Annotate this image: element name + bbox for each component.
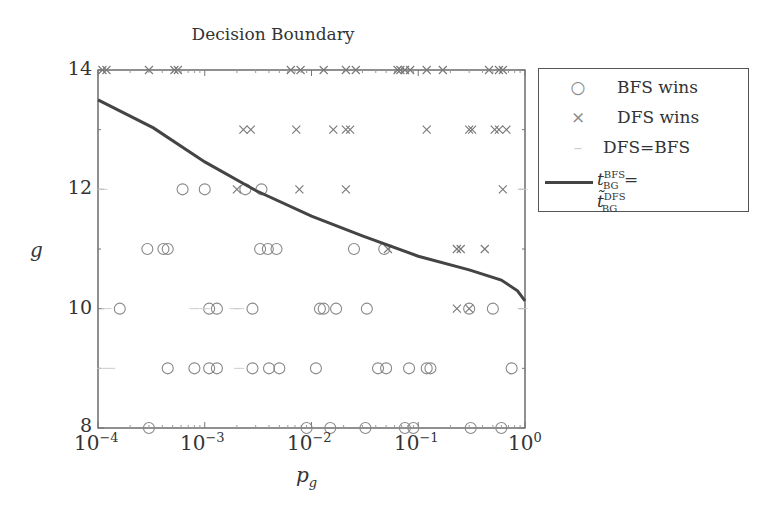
legend-item-dfs-wins: × DFS wins: [539, 107, 748, 135]
legend-item-boundary: tBFSBG = t̃DFSBG: [539, 169, 748, 197]
x-tick-base: 10: [508, 431, 533, 455]
x-tick-exp: −4: [99, 430, 118, 445]
x-tick-exp: −3: [205, 430, 224, 445]
decision-boundary-line: [98, 100, 525, 301]
dash-marker-icon: –: [561, 137, 595, 157]
x-tick-base: 10: [74, 431, 99, 455]
x-tick-1e0: 100: [508, 430, 542, 455]
y-tick-12: 12: [58, 176, 92, 198]
x-axis-label-sub: g: [309, 475, 317, 490]
x-marker-icon: ×: [561, 107, 595, 127]
x-tick-base: 10: [180, 431, 205, 455]
legend-eq: =: [619, 169, 639, 189]
legend-label: tBFSBG = t̃DFSBG: [597, 169, 664, 214]
x-tick-base: 10: [287, 431, 312, 455]
y-axis-label: g: [30, 238, 43, 262]
x-tick-exp: 0: [533, 430, 541, 445]
legend-label: BFS wins: [617, 77, 698, 97]
x-tick-base: 10: [394, 431, 419, 455]
x-tick-1e-4: 10−4: [74, 430, 119, 455]
x-tick-1e-2: 10−2: [287, 430, 332, 455]
data-marks: [97, 66, 527, 434]
x-tick-exp: −2: [312, 430, 331, 445]
legend-label: DFS wins: [617, 107, 699, 127]
x-tick-1e-1: 10−1: [394, 430, 439, 455]
legend-item-bfs-wins: ○ BFS wins: [539, 77, 748, 105]
line-sample-icon: [545, 181, 593, 184]
circle-marker-icon: ○: [561, 77, 595, 97]
x-axis-label: pg: [296, 463, 317, 490]
y-tick-10: 10: [58, 296, 92, 318]
legend-sup2: DFS: [604, 192, 626, 203]
x-tick-1e-3: 10−3: [180, 430, 225, 455]
x-tick-exp: −1: [419, 430, 438, 445]
y-tick-14: 14: [58, 57, 92, 79]
legend-sub: BG: [603, 180, 619, 191]
x-axis-label-base: p: [296, 463, 309, 487]
legend-item-dfs-equals-bfs: – DFS=BFS: [539, 137, 748, 165]
legend-label: DFS=BFS: [603, 137, 690, 157]
legend-sub2: BG: [602, 203, 618, 214]
legend: ○ BFS wins × DFS wins – DFS=BFS tBFSBG =…: [538, 68, 749, 212]
